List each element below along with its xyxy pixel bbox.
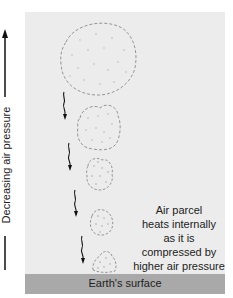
descent-arrow-icon — [81, 236, 83, 259]
descent-arrowhead-icon — [63, 114, 67, 120]
descent-arrowhead-icon — [81, 258, 85, 264]
air-parcel-1 — [61, 23, 136, 95]
process-caption: Air parcel heats internally as it is com… — [128, 203, 230, 273]
caption-line: higher air pressure — [128, 259, 230, 273]
descent-arrow-icon — [68, 143, 70, 166]
earth-surface-label: Earth's surface — [25, 277, 225, 289]
caption-line: compressed by — [128, 245, 230, 259]
descent-arrow-icon — [63, 92, 65, 115]
pressure-axis-label: Decreasing air pressure — [0, 95, 12, 235]
air-parcel-5 — [93, 252, 116, 273]
air-parcel-2 — [77, 105, 120, 150]
caption-line: as it is — [128, 231, 230, 245]
descent-arrowhead-icon — [68, 165, 72, 171]
descent-arrowhead-icon — [74, 211, 78, 217]
air-parcel-3 — [87, 158, 113, 190]
caption-line: heats internally — [128, 217, 230, 231]
caption-line: Air parcel — [128, 203, 230, 217]
air-parcel-4 — [90, 210, 112, 236]
descent-arrow-icon — [74, 190, 76, 212]
